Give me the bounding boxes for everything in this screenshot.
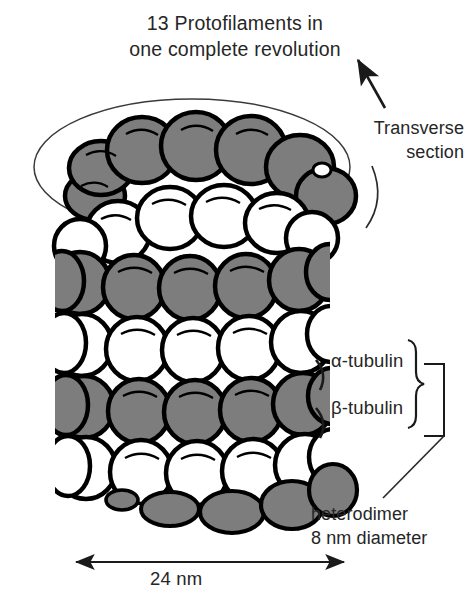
microtubule-cylinder xyxy=(40,112,357,533)
alpha-tubulin-label: α-tubulin xyxy=(331,350,403,372)
subunit-row-beta-1 xyxy=(52,306,355,382)
transverse-leader-line xyxy=(366,166,378,228)
heterodimer-label: heterodimer8 nm diameter xyxy=(311,502,469,550)
transverse-section-label-line-1: Transverse xyxy=(374,118,464,138)
heterodimer-label-line-1: heterodimer xyxy=(311,504,408,524)
figure-title-line-1: 13 Protofilaments in xyxy=(147,12,323,34)
protofilament-lattice xyxy=(40,244,357,505)
microtubule-diagram: 13 Protofilaments inone complete revolut… xyxy=(0,0,470,609)
transverse-section-label: Transversesection xyxy=(336,116,464,164)
transverse-section-label-line-2: section xyxy=(406,142,464,162)
diameter-dimension-label: 24 nm xyxy=(150,568,202,590)
heterodimer-label-line-2: 8 nm diameter xyxy=(311,528,427,548)
subunit-row-alpha-1 xyxy=(50,244,354,320)
beta-tubulin-label: β-tubulin xyxy=(331,397,403,419)
figure-title-line-2: one complete revolution xyxy=(129,38,341,60)
figure-title: 13 Protofilaments inone complete revolut… xyxy=(0,10,470,62)
transverse-pointer-arrow xyxy=(358,60,385,108)
